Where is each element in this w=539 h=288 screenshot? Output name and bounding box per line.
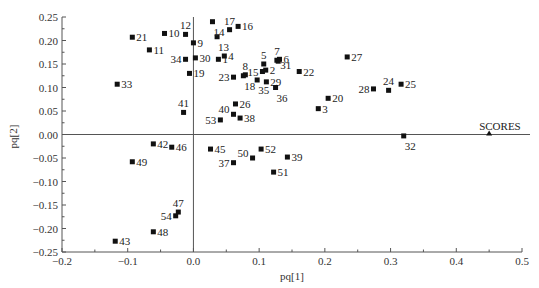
data-point: 14 <box>210 19 225 38</box>
square-marker-icon <box>233 101 238 106</box>
point-label: 46 <box>176 141 188 153</box>
point-label: 19 <box>193 67 205 79</box>
scatter-chart: −0.2−0.10.00.10.20.30.40.50.250.200.150.… <box>0 0 539 288</box>
point-label: 43 <box>119 235 131 247</box>
square-marker-icon <box>216 57 221 62</box>
point-label: 33 <box>121 78 133 90</box>
data-point: 24 <box>383 75 395 93</box>
square-marker-icon <box>285 155 290 160</box>
data-point: 3 <box>316 103 329 115</box>
point-label: 23 <box>219 71 231 83</box>
point-label: 18 <box>244 80 256 92</box>
data-point: 42 <box>151 138 169 150</box>
data-point: 38 <box>238 112 256 124</box>
square-marker-icon <box>231 160 236 165</box>
square-marker-icon <box>210 19 215 24</box>
square-marker-icon <box>236 24 241 29</box>
point-label: 15 <box>247 66 259 78</box>
square-marker-icon <box>271 170 276 175</box>
square-marker-icon <box>238 116 243 121</box>
square-marker-icon <box>231 112 236 117</box>
square-marker-icon <box>208 147 213 152</box>
y-tick-label: 0.15 <box>39 58 59 70</box>
data-point: 31 <box>276 59 292 72</box>
data-point: 41 <box>178 97 189 115</box>
data-point: 15 <box>247 66 265 78</box>
data-point: 22 <box>297 66 315 78</box>
data-point: 51 <box>271 166 289 178</box>
axes: −0.2−0.10.00.10.20.30.40.50.250.200.150.… <box>33 11 530 267</box>
data-point: 33 <box>115 78 133 90</box>
point-label: 22 <box>303 66 314 78</box>
data-point: 46 <box>169 141 187 153</box>
point-label: 45 <box>215 143 227 155</box>
point-label: 20 <box>332 92 344 104</box>
square-marker-icon <box>130 35 135 40</box>
point-label: 41 <box>178 97 189 109</box>
point-label: 28 <box>358 83 370 95</box>
square-marker-icon <box>345 54 350 59</box>
data-point: 25 <box>399 78 417 90</box>
point-label: 42 <box>157 138 168 150</box>
data-points: 1234567891011121314151617181920212223242… <box>113 15 521 248</box>
y-tick-label: 0.20 <box>39 35 59 47</box>
y-tick-label: 0.05 <box>39 105 59 117</box>
point-label: 53 <box>205 114 217 126</box>
square-marker-icon <box>222 54 227 59</box>
point-label: 3 <box>322 103 328 115</box>
scores-marker: SCORES <box>479 120 521 136</box>
point-label: 54 <box>161 210 173 222</box>
square-marker-icon <box>255 77 260 82</box>
square-marker-icon <box>173 213 178 218</box>
point-label: 10 <box>169 27 181 39</box>
point-label: 49 <box>136 156 148 168</box>
data-point: 17 <box>224 15 236 33</box>
point-label: 11 <box>153 44 164 56</box>
data-point: 32 <box>401 133 416 152</box>
point-label: 5 <box>261 49 267 61</box>
point-label: 36 <box>277 92 289 104</box>
data-point: 54 <box>161 210 179 222</box>
data-point: 20 <box>326 92 344 104</box>
x-tick-label: 0.4 <box>449 255 463 267</box>
data-point: 53 <box>205 114 223 126</box>
point-label: 37 <box>219 157 231 169</box>
x-tick-label: 0.2 <box>318 255 332 267</box>
square-marker-icon <box>401 133 406 138</box>
point-label: 32 <box>405 140 416 152</box>
square-marker-icon <box>151 141 156 146</box>
square-marker-icon <box>297 69 302 74</box>
square-marker-icon <box>316 106 321 111</box>
square-marker-icon <box>115 82 120 87</box>
square-marker-icon <box>273 85 278 90</box>
x-axis-title: pq[1] <box>280 270 304 282</box>
square-marker-icon <box>169 145 174 150</box>
x-tick-label: 0.0 <box>187 255 201 267</box>
square-marker-icon <box>260 69 265 74</box>
data-point: 28 <box>358 83 376 95</box>
point-label: 51 <box>278 166 289 178</box>
point-label: 21 <box>136 31 147 43</box>
point-label: 47 <box>173 197 185 209</box>
point-label: 34 <box>171 53 183 65</box>
point-label: SCORES <box>479 120 521 132</box>
data-point: 37 <box>219 157 237 169</box>
point-label: 30 <box>199 52 211 64</box>
point-label: 13 <box>218 41 230 53</box>
data-point: 30 <box>193 52 211 64</box>
chart-canvas: −0.2−0.10.00.10.20.30.40.50.250.200.150.… <box>0 0 539 288</box>
square-marker-icon <box>187 71 192 76</box>
y-tick-label: −0.05 <box>33 152 59 164</box>
data-point: 11 <box>147 44 164 56</box>
data-point: 48 <box>151 226 169 238</box>
square-marker-icon <box>113 239 118 244</box>
square-marker-icon <box>399 82 404 87</box>
y-tick-label: −0.10 <box>33 176 59 188</box>
point-label: 24 <box>383 75 395 87</box>
point-label: 16 <box>242 20 254 32</box>
y-tick-label: 0.00 <box>39 129 59 141</box>
square-marker-icon <box>181 110 186 115</box>
data-point: 39 <box>285 151 303 163</box>
square-marker-icon <box>231 75 236 80</box>
square-marker-icon <box>259 147 264 152</box>
